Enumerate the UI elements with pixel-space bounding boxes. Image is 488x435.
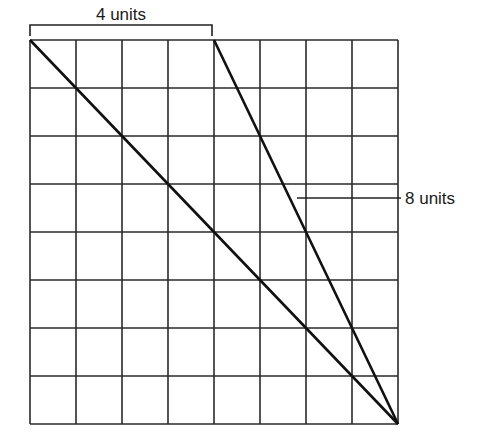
four-units-label: 4 units: [96, 5, 146, 24]
four-units-bracket: [30, 25, 212, 36]
grid-diagram: 4 units 8 units: [0, 0, 488, 435]
eight-units-label: 8 units: [405, 189, 455, 208]
